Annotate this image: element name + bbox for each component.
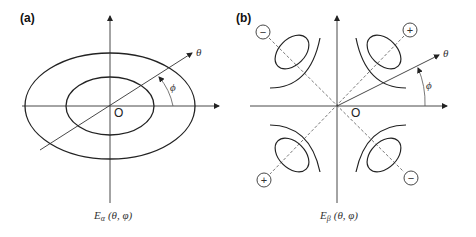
panel-a-label: (a) — [20, 11, 35, 25]
lobe-bottom-left — [269, 125, 320, 178]
svg-text:−: − — [408, 172, 414, 184]
panel-b-label: (b) — [236, 11, 251, 25]
lobe-top-left — [269, 29, 320, 88]
panel-b-caption: Eβ(θ, φ) — [319, 209, 358, 223]
panel-b: (b) θ ϕ O — [236, 11, 449, 223]
panel-b-origin-label: O — [351, 106, 360, 120]
sign-plus-top-right: + — [403, 23, 417, 37]
sign-minus-top-left: − — [256, 25, 270, 39]
panel-b-theta-label: θ — [443, 47, 449, 59]
figure-canvas: (a) θ ϕ O Eα(θ, φ) (b) θ ϕ O — [0, 0, 476, 237]
sign-plus-bottom-left: + — [257, 173, 271, 187]
panel-a-origin-label: O — [114, 106, 123, 120]
sign-minus-bottom-right: − — [404, 171, 418, 185]
panel-a-theta-direction — [40, 53, 192, 150]
panel-a-phi-label: ϕ — [170, 81, 176, 93]
panel-a: (a) θ ϕ O Eα(θ, φ) — [20, 11, 219, 223]
svg-text:+: + — [261, 174, 267, 186]
panel-a-theta-label: θ — [196, 46, 202, 58]
svg-text:−: − — [260, 26, 266, 38]
lobe-bottom-right — [356, 125, 407, 178]
panel-b-phi-arc — [418, 68, 425, 106]
panel-a-caption: Eα(θ, φ) — [93, 209, 133, 223]
svg-text:Eβ(θ, φ): Eβ(θ, φ) — [319, 209, 358, 223]
panel-b-phi-label: ϕ — [426, 79, 432, 91]
lobe-top-right — [356, 29, 407, 88]
panel-b-theta-direction — [337, 55, 439, 106]
svg-text:+: + — [407, 24, 413, 36]
svg-text:Eα(θ, φ): Eα(θ, φ) — [93, 209, 133, 223]
